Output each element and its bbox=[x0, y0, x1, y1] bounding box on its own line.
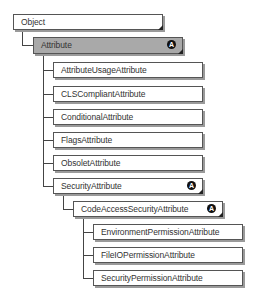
corner-marker-icon bbox=[198, 189, 203, 194]
node-flags: FlagsAttribute bbox=[53, 132, 203, 148]
node-label: FileIOPermissionAttribute bbox=[101, 250, 195, 260]
node-cls-compliant: CLSCompliantAttribute bbox=[53, 86, 203, 102]
connector-h bbox=[83, 255, 93, 256]
node-label: Object bbox=[21, 17, 45, 27]
connector-h bbox=[43, 70, 53, 71]
abstract-badge-icon: A bbox=[167, 40, 176, 49]
connector-h bbox=[43, 163, 53, 164]
node-label: Attribute bbox=[41, 40, 72, 50]
node-code-access-security: CodeAccessSecurityAttribute A bbox=[73, 201, 223, 217]
corner-marker-icon bbox=[218, 212, 223, 217]
connector-object-attribute-h bbox=[22, 45, 33, 46]
node-security: SecurityAttribute A bbox=[53, 178, 203, 194]
connector-object-attribute-v bbox=[22, 30, 23, 46]
node-attribute: Attribute A bbox=[33, 37, 183, 54]
node-label: SecurityAttribute bbox=[61, 181, 122, 191]
connector-attribute-children-v bbox=[43, 54, 44, 187]
node-label: CodeAccessSecurityAttribute bbox=[81, 204, 188, 214]
node-attribute-usage: AttributeUsageAttribute bbox=[53, 62, 203, 78]
node-label: ConditionalAttribute bbox=[61, 112, 133, 122]
node-fileio-permission: FileIOPermissionAttribute bbox=[93, 247, 243, 263]
node-environment-permission: EnvironmentPermissionAttribute bbox=[93, 224, 243, 240]
connector-code-access-children-v bbox=[83, 217, 84, 279]
node-conditional: ConditionalAttribute bbox=[53, 109, 203, 125]
connector-h bbox=[43, 186, 53, 187]
connector-h bbox=[43, 117, 53, 118]
node-label: EnvironmentPermissionAttribute bbox=[101, 227, 219, 237]
class-hierarchy-diagram: Object Attribute A AttributeUsageAttribu… bbox=[0, 0, 263, 299]
connector-h bbox=[83, 232, 93, 233]
abstract-badge-icon: A bbox=[187, 181, 196, 190]
corner-marker-icon bbox=[158, 25, 163, 30]
connector-security-code-access-h bbox=[63, 209, 73, 210]
abstract-badge-icon: A bbox=[207, 204, 216, 213]
node-label: AttributeUsageAttribute bbox=[61, 65, 147, 75]
connector-h bbox=[43, 94, 53, 95]
node-label: SecurityPermissionAttribute bbox=[101, 273, 203, 283]
node-obsolete: ObsoletAttribute bbox=[53, 155, 203, 171]
node-security-permission: SecurityPermissionAttribute bbox=[93, 270, 243, 286]
node-label: FlagsAttribute bbox=[61, 135, 112, 145]
node-label: CLSCompliantAttribute bbox=[61, 89, 145, 99]
connector-h bbox=[83, 278, 93, 279]
node-object: Object bbox=[13, 14, 163, 30]
corner-marker-icon bbox=[178, 49, 183, 54]
connector-h bbox=[43, 140, 53, 141]
node-label: ObsoletAttribute bbox=[61, 158, 120, 168]
connector-security-code-access-v bbox=[63, 194, 64, 210]
